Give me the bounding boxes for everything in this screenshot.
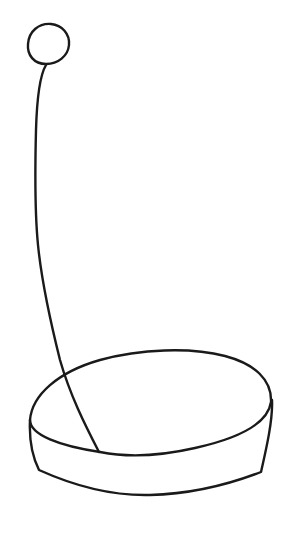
ball	[28, 24, 69, 64]
base	[30, 350, 272, 495]
stem-line	[35, 65, 99, 452]
ball-outline	[28, 24, 69, 64]
base-top-ellipse	[30, 350, 271, 455]
base-side-wall	[30, 400, 272, 495]
sketch-drawing	[0, 0, 293, 541]
